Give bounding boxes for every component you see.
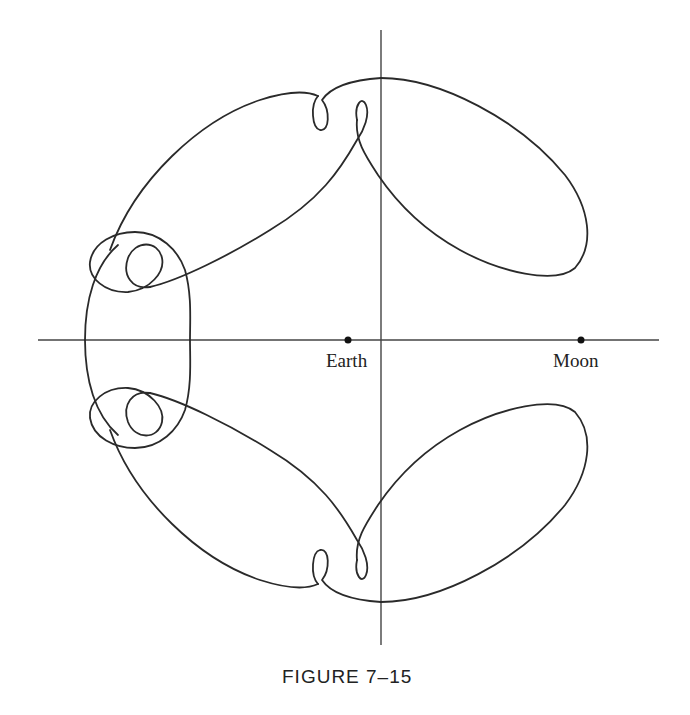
moon-label: Moon xyxy=(553,350,598,372)
figure: Earth Moon FIGURE 7–15 xyxy=(0,0,690,715)
moon-point xyxy=(578,337,585,344)
figure-caption: FIGURE 7–15 xyxy=(282,666,412,688)
trajectory-upper xyxy=(85,78,587,340)
earth-point xyxy=(345,337,352,344)
earth-label: Earth xyxy=(326,350,367,372)
trajectory-lower xyxy=(85,340,587,602)
